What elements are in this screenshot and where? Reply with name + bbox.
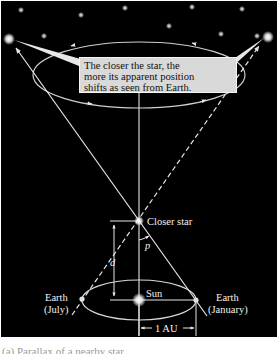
earth-july-label-line1: Earth — [45, 292, 68, 303]
diagram-svg: Closer star p d Sun Earth (July) Earth (… — [0, 0, 278, 340]
star-icon — [122, 5, 128, 11]
ellipse-arrow-top-right — [192, 43, 196, 44]
figure-caption: (a) Parallax of a nearby star — [2, 340, 272, 354]
parallax-figure: Closer star p d Sun Earth (July) Earth (… — [0, 0, 278, 354]
star-icon — [78, 12, 84, 18]
star-icon — [189, 4, 195, 10]
au-label: 1 AU — [155, 323, 178, 334]
background-stars — [18, 4, 260, 39]
callout-line: The closer the star, the — [84, 60, 236, 71]
earth-july-label-line2: (July) — [44, 304, 69, 316]
star-icon — [239, 6, 245, 12]
callout-line: shifts as seen from Earth. — [84, 82, 236, 93]
star-icon — [41, 33, 47, 39]
callout-pointer-left — [14, 40, 84, 68]
ellipse-arrow-top — [71, 45, 75, 46]
star-icon — [254, 33, 260, 39]
star-icon — [18, 7, 24, 13]
closer-star-icon — [134, 216, 144, 226]
left-apparent-star-icon — [3, 33, 15, 45]
star-icon — [218, 31, 224, 37]
right-apparent-star-icon — [262, 31, 274, 43]
earth-january-icon — [193, 297, 198, 302]
earth-july-icon — [79, 296, 84, 301]
callout-box: The closer the star, the more its appare… — [79, 57, 237, 93]
earth-january-label-line1: Earth — [216, 292, 239, 303]
closer-star-label: Closer star — [147, 216, 193, 227]
callout-line: more its apparent position — [84, 71, 236, 82]
star-icon — [166, 23, 172, 29]
earth-january-label-line2: (January) — [208, 304, 248, 316]
sun-label: Sun — [146, 288, 163, 299]
parallax-angle-label: p — [144, 240, 150, 251]
distance-label: d — [110, 257, 116, 268]
sun-icon — [132, 293, 146, 307]
